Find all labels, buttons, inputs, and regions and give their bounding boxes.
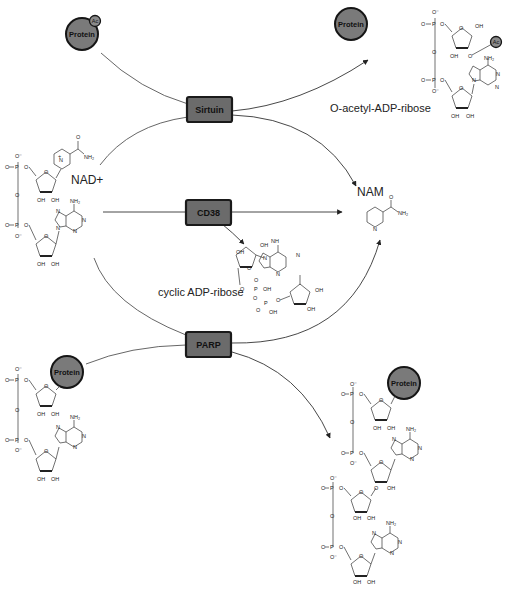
svg-text:N: N <box>496 71 500 77</box>
svg-text:O: O <box>44 169 49 175</box>
svg-text:P: P <box>432 77 436 83</box>
svg-text:P: P <box>432 21 436 27</box>
svg-text:N: N <box>296 252 300 258</box>
svg-text:O: O <box>421 21 426 27</box>
svg-text:N: N <box>410 456 414 462</box>
svg-text:P: P <box>15 437 19 443</box>
enzyme-sirtuin-label: Sirtuin <box>195 105 224 115</box>
svg-text:N: N <box>73 444 77 450</box>
svg-text:N: N <box>418 445 422 451</box>
svg-text:O: O <box>44 448 49 454</box>
svg-text:OH: OH <box>466 113 474 119</box>
svg-text:O: O <box>24 377 29 383</box>
edge-nad-to-sirtuin <box>100 117 188 165</box>
svg-text:O: O <box>359 391 364 397</box>
svg-text:O: O <box>359 489 364 495</box>
cyclic-adp-ribose-label: cyclic ADP-ribose <box>158 286 244 298</box>
enzyme-sirtuin[interactable]: Sirtuin <box>187 97 232 122</box>
enzyme-parp[interactable]: PARP <box>186 332 231 357</box>
svg-text:O: O <box>339 485 344 491</box>
nad-label: NAD+ <box>71 173 103 187</box>
enzyme-cd38[interactable]: CD38 <box>186 200 231 225</box>
protein-label: Protein <box>338 20 364 29</box>
molecule-cyclic-adp-ribose: OH OH O N NH N N O P OH O O P O OH O OH … <box>158 238 323 315</box>
svg-text:O⁻: O⁻ <box>350 460 357 466</box>
protein-label: Protein <box>391 379 417 388</box>
svg-text:OH: OH <box>387 425 395 431</box>
svg-text:O: O <box>432 49 437 55</box>
svg-text:N: N <box>472 77 476 83</box>
protein-deacetylated: Protein <box>335 8 367 40</box>
molecule-protein-poly-adp-ribose: Protein O⁻ O P O O O P O O⁻ O OH OH O O … <box>321 367 422 585</box>
svg-text:P: P <box>350 450 354 456</box>
svg-text:OH: OH <box>315 287 323 293</box>
svg-text:P: P <box>15 377 19 383</box>
svg-text:O: O <box>459 25 464 31</box>
acetyl-label: Ac <box>493 39 500 45</box>
svg-text:O: O <box>253 295 258 301</box>
svg-text:OH: OH <box>373 425 381 431</box>
edge-parp-to-par-protein <box>232 352 330 438</box>
svg-text:O: O <box>44 383 49 389</box>
svg-text:OH: OH <box>451 113 459 119</box>
svg-text:O: O <box>76 134 81 140</box>
svg-text:NH₂: NH₂ <box>84 154 94 160</box>
svg-text:N: N <box>373 226 377 232</box>
protein-label: Protein <box>54 368 80 377</box>
svg-text:O: O <box>44 233 49 239</box>
svg-text:N: N <box>56 208 60 214</box>
edge-cd38-to-cadpr <box>222 224 244 244</box>
svg-text:OH: OH <box>367 579 375 585</box>
svg-text:O: O <box>24 164 29 170</box>
protein-label: Protein <box>69 30 95 39</box>
edge-protein-adpr-to-parp <box>86 345 186 364</box>
svg-text:P: P <box>330 485 334 491</box>
svg-text:O: O <box>389 194 394 200</box>
svg-text:OH: OH <box>37 197 45 203</box>
enzyme-parp-label: PARP <box>196 340 220 350</box>
protein-acetylated: Protein Ac <box>66 16 101 51</box>
svg-text:O: O <box>459 85 464 91</box>
svg-text:O: O <box>359 553 364 559</box>
svg-text:O⁻: O⁻ <box>432 9 439 15</box>
svg-text:OH: OH <box>387 485 395 491</box>
svg-text:OH: OH <box>37 261 45 267</box>
svg-text:O: O <box>15 192 20 198</box>
svg-text:O⁻: O⁻ <box>350 381 357 387</box>
svg-text:OH: OH <box>263 286 271 292</box>
svg-text:O⁻: O⁻ <box>330 475 337 481</box>
svg-text:O: O <box>468 53 473 59</box>
svg-text:O: O <box>247 265 252 271</box>
svg-text:OH: OH <box>269 309 277 315</box>
svg-text:O: O <box>330 513 335 519</box>
svg-text:O: O <box>256 307 261 313</box>
molecule-nad: O⁻ O P O O O P O O⁻ O OH OH N + O NH₂ O … <box>5 134 103 267</box>
svg-text:P: P <box>254 286 258 292</box>
svg-text:OH: OH <box>353 579 361 585</box>
svg-text:NH₂: NH₂ <box>386 520 396 526</box>
svg-text:NH₂: NH₂ <box>406 426 416 432</box>
svg-text:OH: OH <box>450 53 458 59</box>
svg-text:+: + <box>58 153 61 159</box>
svg-text:OH: OH <box>307 306 315 312</box>
svg-text:N: N <box>56 424 60 430</box>
svg-text:P: P <box>264 300 268 306</box>
svg-text:P: P <box>350 391 354 397</box>
svg-text:O: O <box>350 419 355 425</box>
molecule-nam: NAM N O NH₂ <box>357 185 408 232</box>
svg-text:O: O <box>440 77 445 83</box>
svg-text:O⁻: O⁻ <box>15 366 22 372</box>
svg-text:O: O <box>359 450 364 456</box>
svg-text:OH: OH <box>475 23 483 29</box>
svg-text:N: N <box>263 255 267 261</box>
svg-text:O: O <box>254 277 259 283</box>
svg-text:P: P <box>15 164 19 170</box>
svg-text:NH₂: NH₂ <box>70 414 80 420</box>
svg-text:NH₂: NH₂ <box>70 198 80 204</box>
svg-text:OH: OH <box>37 476 45 482</box>
svg-text:O⁻: O⁻ <box>15 233 22 239</box>
nam-label: NAM <box>357 185 384 199</box>
svg-text:N: N <box>398 539 402 545</box>
svg-text:OH: OH <box>353 515 361 521</box>
enzyme-cd38-label: CD38 <box>197 208 220 218</box>
